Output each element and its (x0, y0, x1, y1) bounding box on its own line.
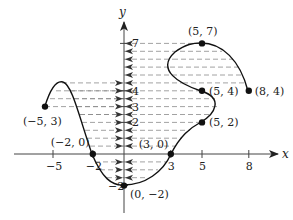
right-arrow-icon (115, 159, 123, 165)
left-arrow-icon (125, 135, 133, 141)
left-arrow-icon (125, 56, 133, 62)
point-label: (5, 2) (209, 116, 239, 129)
axis-ticks: −5−23587432−2 (46, 37, 253, 192)
point-label: (0, −2) (130, 188, 169, 201)
y-axis-label: y (118, 5, 126, 19)
projection-dashed-lines (45, 43, 246, 177)
y-tick-label: 7 (132, 37, 139, 50)
x-tick-label: 5 (199, 160, 206, 173)
point-label: (8, 4) (255, 85, 285, 98)
point-marker (199, 40, 205, 46)
left-arrow-icon (125, 72, 133, 78)
x-tick-label: 8 (246, 160, 253, 173)
right-arrow-icon (115, 127, 123, 133)
point-marker (90, 151, 96, 157)
point-label: (3, 0) (139, 138, 169, 151)
point-marker (246, 88, 252, 94)
point-marker (121, 182, 127, 188)
y-tick-label: 4 (132, 85, 139, 98)
x-axis-label: x (282, 147, 289, 161)
left-arrow-icon (125, 143, 133, 149)
point-marker (42, 103, 48, 109)
y-tick-label: 2 (132, 116, 139, 129)
left-arrow-icon (125, 175, 133, 181)
left-arrow-icon (125, 64, 133, 70)
point-label: (5, 7) (188, 25, 218, 38)
right-arrow-icon (115, 135, 123, 141)
function-curve (45, 43, 248, 185)
y-tick-label: 3 (132, 101, 139, 114)
point-label: (−5, 3) (23, 115, 62, 128)
graph-canvas: x y −5−23587432−2 (−5, 3)(−2, 0)(0, −2)(… (0, 0, 293, 220)
point-marker (199, 119, 205, 125)
x-tick-label: −2 (86, 160, 102, 173)
x-tick-label: 3 (168, 160, 175, 173)
left-arrow-icon (125, 159, 133, 165)
point-label: (−2, 0) (51, 136, 90, 149)
point-marker (199, 88, 205, 94)
x-tick-label: −5 (46, 160, 62, 173)
point-label: (5, 4) (209, 85, 239, 98)
left-arrow-icon (125, 167, 133, 173)
right-arrow-icon (115, 80, 123, 86)
function-graph: x y −5−23587432−2 (−5, 3)(−2, 0)(0, −2)(… (0, 0, 293, 220)
point-marker (168, 151, 174, 157)
labeled-points: (−5, 3)(−2, 0)(0, −2)(3, 0)(5, 2)(5, 4)(… (23, 25, 284, 200)
